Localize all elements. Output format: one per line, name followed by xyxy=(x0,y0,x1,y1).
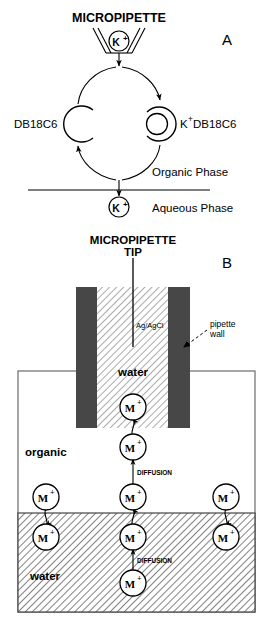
ion-organic-center-charge: + xyxy=(137,488,142,497)
ion-below-tip: M + xyxy=(120,434,146,460)
ion-water-left: M + xyxy=(33,524,59,550)
ion-organic-center-label: M xyxy=(125,492,136,504)
ion-k-aqueous: K + xyxy=(109,197,129,217)
pipette-wall-label-line2: wall xyxy=(209,329,225,339)
ion-water-right: M + xyxy=(213,524,239,550)
ion-water-center: M + xyxy=(120,524,146,550)
label-diffusion-organic: DIFFUSION xyxy=(137,469,172,476)
panel-b-title-line1: MICROPIPETTE xyxy=(90,234,177,246)
ion-organic-left: M + xyxy=(33,484,59,510)
ion-inside-pipette-charge: + xyxy=(137,398,142,407)
pipette-wall-label-line1: pipette xyxy=(210,319,236,329)
ag-agcl-label: Ag/AgCl xyxy=(136,321,164,330)
panel-b-letter: B xyxy=(222,254,232,271)
ion-water-left-label: M xyxy=(38,532,49,544)
ion-inside-pipette-label: M xyxy=(125,402,136,414)
label-water-outer: water xyxy=(29,570,61,582)
ion-organic-left-label: M xyxy=(38,492,49,504)
carrier-db18c6-label: DB18C6 xyxy=(14,118,57,130)
ion-organic-left-charge: + xyxy=(50,488,55,497)
ion-organic-center: M + xyxy=(120,484,146,510)
carrier-complex-label-suffix: DB18C6 xyxy=(193,118,236,130)
ion-water-right-label: M xyxy=(218,532,229,544)
carrier-complex-label-prefix: K xyxy=(180,118,188,130)
ion-k-in-pipette: K + xyxy=(109,31,129,51)
ion-below-tip-charge: + xyxy=(137,438,142,447)
ion-water-left-charge: + xyxy=(50,528,55,537)
panel-b-title-line2: TIP xyxy=(124,246,142,258)
ion-k-aqueous-label: K xyxy=(112,202,120,214)
ion-water-bottom: M + xyxy=(120,570,146,596)
ion-water-bottom-label: M xyxy=(125,578,136,590)
ion-organic-right-charge: + xyxy=(230,488,235,497)
ion-water-bottom-charge: + xyxy=(137,574,142,583)
label-organic: organic xyxy=(25,446,67,458)
ion-water-right-charge: + xyxy=(230,528,235,537)
ion-k-in-pipette-label: K xyxy=(112,36,120,48)
ion-water-center-charge: + xyxy=(137,528,142,537)
ion-organic-right: M + xyxy=(213,484,239,510)
pipette-wall-left xyxy=(76,287,97,428)
scientific-figure: MICROPIPETTE A K + DB18C6 xyxy=(0,0,272,629)
label-organic-phase: Organic Phase xyxy=(152,166,228,178)
label-diffusion-water: DIFFUSION xyxy=(137,557,172,564)
panel-a-letter: A xyxy=(222,31,232,48)
ion-below-tip-label: M xyxy=(125,442,136,454)
panel-a-title: MICROPIPETTE xyxy=(72,11,166,25)
label-water-inner: water xyxy=(117,366,149,378)
pipette-wall-right xyxy=(168,287,190,428)
label-aqueous-phase: Aqueous Phase xyxy=(152,202,233,214)
ion-water-center-label: M xyxy=(125,532,136,544)
ion-organic-right-label: M xyxy=(218,492,229,504)
figure-canvas: MICROPIPETTE A K + DB18C6 xyxy=(0,0,272,629)
ion-k-aqueous-charge: + xyxy=(123,200,128,209)
ion-inside-pipette: M + xyxy=(120,394,146,420)
ion-k-in-pipette-charge: + xyxy=(123,34,128,43)
